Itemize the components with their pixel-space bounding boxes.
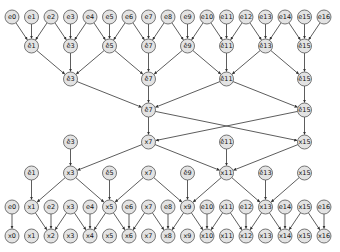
node-label: e0 bbox=[8, 203, 16, 211]
node-label: ê15 bbox=[298, 42, 310, 50]
node-r2c11: ê11 bbox=[220, 72, 234, 86]
node-r0c14: e14 bbox=[278, 10, 292, 24]
node-r7c3: x3 bbox=[64, 229, 78, 243]
edge-arrow bbox=[115, 178, 143, 202]
node-label: x0 bbox=[8, 232, 16, 240]
node-r0c2: e2 bbox=[44, 10, 58, 24]
node-label: x15 bbox=[298, 138, 310, 146]
edge-arrow bbox=[115, 51, 143, 75]
node-label: ê9 bbox=[183, 42, 191, 50]
node-label: x10 bbox=[201, 232, 213, 240]
node-r5c1: ê1 bbox=[25, 166, 39, 180]
node-label: x13 bbox=[259, 203, 271, 211]
node-label: ê3 bbox=[66, 75, 74, 83]
edge-arrow bbox=[309, 23, 320, 40]
edge-arrow bbox=[269, 213, 280, 230]
edge-arrow bbox=[271, 51, 299, 75]
edge-arrow bbox=[232, 178, 260, 202]
network-diagram: e0e1e2e3e4e5e6e7e8e9e10e11e12e13e14e15e1… bbox=[0, 0, 340, 252]
edge-arrow bbox=[35, 213, 46, 230]
edge-arrow bbox=[114, 23, 125, 40]
edge-arrow bbox=[75, 23, 86, 40]
node-r2c3: ê3 bbox=[64, 72, 78, 86]
node-label: ê3 bbox=[66, 138, 74, 146]
node-r1c15: ê15 bbox=[298, 39, 312, 53]
node-r6c13: x13 bbox=[259, 200, 273, 214]
node-label: ê15 bbox=[298, 75, 310, 83]
edge-arrow bbox=[155, 82, 220, 108]
node-label: ê1 bbox=[27, 169, 35, 177]
node-r6c0: e0 bbox=[5, 200, 19, 214]
node-label: x15 bbox=[298, 169, 310, 177]
node-label: ê7 bbox=[144, 75, 152, 83]
edge-arrow bbox=[113, 213, 124, 230]
edge-arrow bbox=[37, 178, 65, 202]
node-label: x11 bbox=[220, 203, 232, 211]
node-r7c10: x10 bbox=[200, 229, 214, 243]
node-label: e11 bbox=[220, 13, 232, 21]
node-r7c0: x0 bbox=[5, 229, 19, 243]
node-label: e8 bbox=[164, 203, 172, 211]
node-label: e1 bbox=[27, 13, 35, 21]
node-r6c14: e14 bbox=[278, 200, 292, 214]
node-r7c8: x8 bbox=[161, 229, 175, 243]
node-label: e2 bbox=[47, 203, 55, 211]
node-label: e5 bbox=[105, 13, 113, 21]
node-r6c15: x15 bbox=[298, 200, 312, 214]
node-label: e6 bbox=[125, 203, 133, 211]
node-r3c15: ê15 bbox=[298, 103, 312, 117]
edge-arrow bbox=[94, 213, 105, 230]
node-label: ê9 bbox=[183, 169, 191, 177]
node-label: x12 bbox=[240, 232, 252, 240]
edge-arrow bbox=[191, 213, 202, 230]
node-label: ê11 bbox=[220, 138, 232, 146]
node-r6c11: x11 bbox=[220, 200, 234, 214]
edge-arrow bbox=[193, 178, 221, 202]
node-label: x3 bbox=[67, 169, 75, 177]
node-label: ê5 bbox=[105, 169, 113, 177]
edge-arrow bbox=[153, 23, 164, 40]
edge-arrow bbox=[154, 178, 182, 202]
edge-arrow bbox=[308, 213, 319, 230]
edge-arrow bbox=[271, 178, 299, 202]
node-label: e10 bbox=[201, 203, 213, 211]
node-label: ê11 bbox=[220, 75, 232, 83]
node-label: x9 bbox=[184, 203, 192, 211]
node-label: ê5 bbox=[105, 42, 113, 50]
node-label: e12 bbox=[240, 203, 252, 211]
node-label: ê7 bbox=[144, 42, 152, 50]
node-r4c3: ê3 bbox=[64, 135, 78, 149]
node-r6c6: e6 bbox=[122, 200, 136, 214]
edge-arrow bbox=[289, 213, 300, 230]
edge-arrow bbox=[16, 23, 27, 40]
node-r0c12: e12 bbox=[239, 10, 253, 24]
node-label: e2 bbox=[47, 13, 55, 21]
node-r3c7: ê7 bbox=[142, 103, 156, 117]
node-label: e4 bbox=[86, 203, 94, 211]
edge-arrow bbox=[172, 213, 183, 230]
node-r4c15: x15 bbox=[298, 135, 312, 149]
node-r1c11: ê11 bbox=[220, 39, 234, 53]
node-label: ê1 bbox=[27, 42, 35, 50]
edge-arrow bbox=[77, 82, 142, 108]
edge-arrow bbox=[231, 23, 242, 40]
node-r5c11: x11 bbox=[220, 166, 234, 180]
node-r4c11: ê11 bbox=[220, 135, 234, 149]
edge-arrow bbox=[36, 23, 47, 40]
node-r4c7: x7 bbox=[142, 135, 156, 149]
node-r6c2: e2 bbox=[44, 200, 58, 214]
edge-arrow bbox=[55, 213, 66, 230]
edge-arrow bbox=[172, 23, 183, 40]
node-label: x14 bbox=[279, 232, 291, 240]
node-r0c9: e9 bbox=[181, 10, 195, 24]
edge-layer bbox=[12, 23, 324, 230]
node-label: x11 bbox=[220, 232, 232, 240]
node-r7c6: x6 bbox=[122, 229, 136, 243]
node-r6c8: e8 bbox=[161, 200, 175, 214]
node-label: e16 bbox=[318, 13, 330, 21]
node-layer: e0e1e2e3e4e5e6e7e8e9e10e11e12e13e14e15e1… bbox=[5, 10, 331, 243]
node-label: e16 bbox=[318, 203, 330, 211]
node-label: x7 bbox=[145, 169, 153, 177]
node-r6c3: x3 bbox=[64, 200, 78, 214]
node-label: e3 bbox=[66, 13, 74, 21]
